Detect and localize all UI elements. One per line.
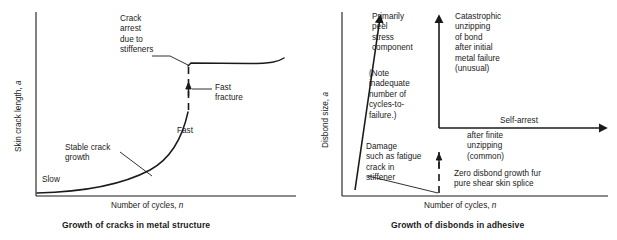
right-x-axis-symbol: n [492, 201, 497, 210]
annotation-slow: Slow [42, 175, 60, 185]
right-y-axis-label: Disbond size, a [321, 92, 330, 148]
annotation-stable-crack-growth: Stable crack growth [65, 143, 110, 164]
annotation-crack-arrest: Crack arrest due to stiffeners [120, 14, 153, 56]
left-leader-crack-arrest [152, 56, 188, 65]
annotation-zero-disbond-growth: Zero disbond growth fur pure shear skin … [454, 169, 541, 190]
annotation-damage-fatigue: Damage such as fatigue crack in stiffene… [366, 142, 421, 184]
left-axes [36, 12, 296, 196]
annotation-fast: Fast [177, 126, 193, 136]
annotation-primarily-peel: Primarily peel stress component [372, 12, 413, 54]
right-x-axis-label: Number of cycles, n [424, 201, 496, 210]
left-y-axis-symbol: a [14, 81, 23, 86]
left-fast-fracture-arrow [186, 83, 191, 97]
annotation-catastrophic-unzipping: Catastrophic unzipping of bond after ini… [455, 12, 501, 74]
left-leader-stable-growth [120, 152, 152, 176]
left-y-axis-label: Skin crack length, a [14, 81, 23, 152]
annotation-after-finite-unzipping: after finite unzipping (common) [467, 131, 504, 162]
right-y-axis-symbol: a [321, 92, 330, 97]
annotation-fast-fracture: Fast fracture [215, 83, 243, 104]
annotation-self-arrest: Self-arrest [500, 116, 538, 126]
left-curve-arrest-plateau [188, 58, 284, 66]
right-zero-disbond-arrow [436, 154, 441, 169]
left-figure-caption: Growth of cracks in metal structure [62, 220, 210, 230]
left-x-axis-label: Number of cycles, n [111, 201, 183, 210]
left-figure-panel: Skin crack length, a Number of cycles, n… [0, 0, 308, 240]
left-x-axis-symbol: n [179, 201, 184, 210]
right-figure-caption: Growth of disbonds in adhesive [391, 220, 524, 230]
right-figure-panel: Disbond size, a Number of cycles, n Prim… [308, 0, 617, 240]
annotation-note-inadequate: (Note inadequate number of cycles-to- fa… [369, 69, 410, 121]
